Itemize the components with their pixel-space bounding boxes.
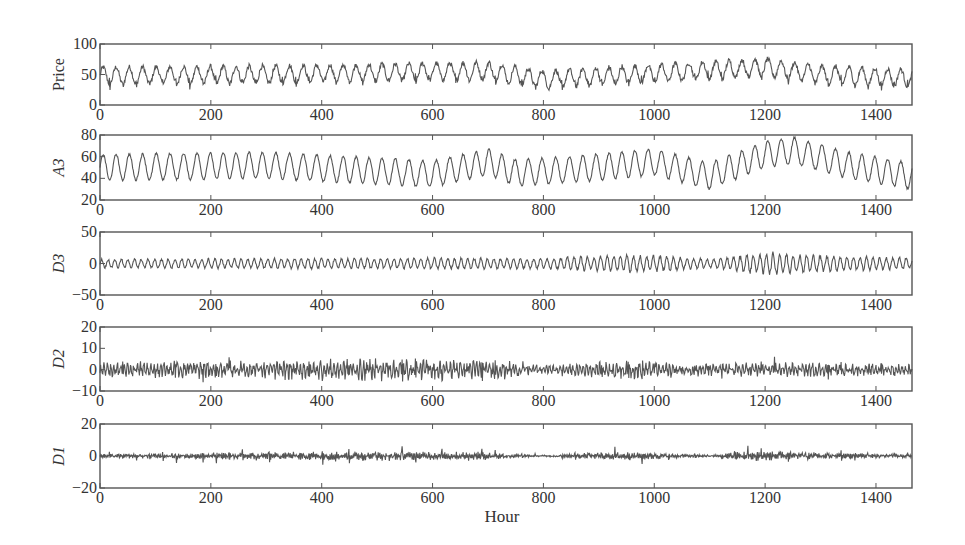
y-tick-label: 20 — [81, 415, 97, 432]
x-tick-label: 1200 — [749, 201, 781, 218]
panel-d2: 0200400600800100012001400−1001020D2 — [50, 318, 912, 409]
y-tick-label: 0 — [89, 447, 97, 464]
x-axis-label: Hour — [485, 507, 520, 526]
series-line — [100, 137, 912, 190]
x-tick-label: 600 — [421, 392, 445, 409]
x-tick-label: 600 — [421, 201, 445, 218]
x-tick-label: 400 — [310, 201, 334, 218]
x-tick-label: 200 — [199, 489, 223, 506]
y-tick-label: 10 — [81, 339, 97, 356]
x-tick-label: 1000 — [638, 106, 670, 123]
x-tick-label: 1400 — [860, 392, 892, 409]
x-tick-label: 600 — [421, 106, 445, 123]
y-tick-label: 80 — [81, 126, 97, 143]
series-line — [100, 446, 912, 465]
x-tick-label: 1000 — [638, 296, 670, 313]
panel-a3: 020040060080010001200140020406080A3 — [50, 126, 912, 218]
y-axis-label: D1 — [50, 446, 67, 467]
wavelet-decomposition-figure: 0200400600800100012001400050100Price0200… — [0, 0, 965, 545]
x-tick-label: 1400 — [860, 106, 892, 123]
x-tick-label: 200 — [199, 392, 223, 409]
figure-canvas: 0200400600800100012001400050100Price0200… — [0, 0, 965, 545]
x-tick-label: 200 — [199, 106, 223, 123]
y-axis-label: D3 — [50, 254, 67, 275]
x-tick-label: 400 — [310, 489, 334, 506]
panels: 0200400600800100012001400050100Price0200… — [50, 35, 912, 506]
x-tick-label: 1400 — [860, 201, 892, 218]
panel-d3: 0200400600800100012001400−50050D3 — [50, 223, 912, 313]
x-tick-label: 0 — [96, 489, 104, 506]
y-tick-label: 0 — [89, 96, 97, 113]
x-tick-label: 600 — [421, 489, 445, 506]
panel-price: 0200400600800100012001400050100Price — [50, 35, 912, 123]
x-tick-label: 800 — [531, 392, 555, 409]
y-tick-label: 0 — [89, 255, 97, 272]
y-tick-label: 100 — [73, 35, 97, 52]
y-axis-label: Price — [50, 58, 67, 91]
axes-frame — [100, 135, 912, 200]
x-tick-label: 800 — [531, 201, 555, 218]
x-tick-label: 1200 — [749, 392, 781, 409]
x-tick-label: 1200 — [749, 106, 781, 123]
x-tick-label: 200 — [199, 201, 223, 218]
y-tick-label: −50 — [72, 286, 97, 303]
series-line — [100, 357, 912, 383]
y-tick-label: 0 — [89, 361, 97, 378]
x-tick-label: 600 — [421, 296, 445, 313]
y-tick-label: 50 — [81, 223, 97, 240]
x-tick-label: 400 — [310, 392, 334, 409]
y-tick-label: 40 — [81, 169, 97, 186]
x-tick-label: 0 — [96, 106, 104, 123]
x-tick-label: 400 — [310, 296, 334, 313]
y-tick-label: −20 — [72, 479, 97, 496]
series-line — [100, 57, 912, 91]
x-tick-label: 800 — [531, 489, 555, 506]
panel-d1: 0200400600800100012001400−20020D1 — [50, 415, 912, 506]
x-tick-label: 1400 — [860, 296, 892, 313]
series-line — [100, 252, 912, 275]
x-tick-label: 1000 — [638, 392, 670, 409]
x-tick-label: 1000 — [638, 489, 670, 506]
x-tick-label: 0 — [96, 296, 104, 313]
y-tick-label: −10 — [72, 382, 97, 399]
x-tick-label: 800 — [531, 296, 555, 313]
x-tick-label: 1200 — [749, 489, 781, 506]
x-tick-label: 200 — [199, 296, 223, 313]
y-tick-label: 50 — [81, 66, 97, 83]
x-tick-label: 1200 — [749, 296, 781, 313]
x-tick-label: 1000 — [638, 201, 670, 218]
y-tick-label: 60 — [81, 148, 97, 165]
x-tick-label: 0 — [96, 201, 104, 218]
x-tick-label: 800 — [531, 106, 555, 123]
x-tick-label: 0 — [96, 392, 104, 409]
x-tick-label: 1400 — [860, 489, 892, 506]
x-tick-label: 400 — [310, 106, 334, 123]
y-axis-label: A3 — [50, 159, 67, 178]
y-tick-label: 20 — [81, 318, 97, 335]
y-axis-label: D2 — [50, 349, 67, 370]
axes-frame — [100, 327, 912, 391]
y-tick-label: 20 — [81, 191, 97, 208]
